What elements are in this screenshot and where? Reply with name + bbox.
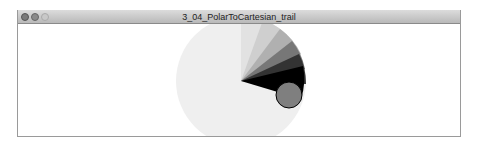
- window-title: 3_04_PolarToCartesian_trail: [18, 11, 460, 23]
- polar-trail-graphic: [18, 24, 460, 136]
- app-window: 3_04_PolarToCartesian_trail: [17, 10, 461, 137]
- sketch-canvas[interactable]: [18, 24, 460, 136]
- ball: [276, 82, 302, 108]
- title-bar[interactable]: 3_04_PolarToCartesian_trail: [18, 10, 460, 24]
